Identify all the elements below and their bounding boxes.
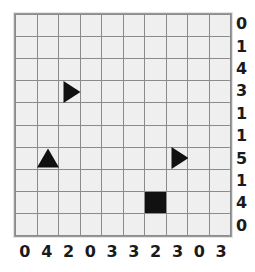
grid-cell[interactable]	[38, 214, 59, 235]
grid-cell[interactable]	[167, 37, 188, 58]
grid-cell[interactable]	[59, 37, 80, 58]
grid-cell[interactable]	[210, 81, 231, 102]
grid-cell[interactable]	[210, 148, 231, 169]
grid-cell[interactable]	[102, 170, 123, 191]
grid-cell[interactable]	[16, 59, 37, 80]
grid-cell[interactable]	[38, 103, 59, 124]
grid-cell[interactable]	[59, 214, 80, 235]
grid-cell[interactable]	[38, 15, 59, 36]
grid-cell[interactable]	[59, 170, 80, 191]
grid-cell[interactable]	[145, 59, 166, 80]
grid-cell[interactable]	[210, 15, 231, 36]
grid-cell[interactable]	[210, 214, 231, 235]
grid-cell[interactable]	[124, 148, 145, 169]
grid-cell[interactable]	[16, 81, 37, 102]
grid-cell[interactable]	[167, 103, 188, 124]
grid-cell[interactable]	[124, 15, 145, 36]
grid-cell[interactable]	[210, 170, 231, 191]
grid-cell[interactable]	[167, 126, 188, 147]
grid-cell[interactable]	[102, 214, 123, 235]
grid-cell[interactable]	[81, 59, 102, 80]
grid-cell[interactable]	[102, 148, 123, 169]
grid-cell[interactable]	[16, 214, 37, 235]
grid-cell[interactable]	[145, 192, 166, 213]
grid-cell[interactable]	[16, 192, 37, 213]
grid-cell[interactable]	[124, 126, 145, 147]
grid-cell[interactable]	[16, 126, 37, 147]
grid-cell[interactable]	[188, 37, 209, 58]
grid-cell[interactable]	[16, 148, 37, 169]
grid-cell[interactable]	[38, 192, 59, 213]
grid-cell[interactable]	[102, 15, 123, 36]
grid-cell[interactable]	[210, 37, 231, 58]
grid-cell[interactable]	[145, 170, 166, 191]
grid-cell[interactable]	[102, 126, 123, 147]
grid-cell[interactable]	[210, 59, 231, 80]
grid-cell[interactable]	[59, 126, 80, 147]
grid-cell[interactable]	[167, 59, 188, 80]
grid-cell[interactable]	[59, 81, 80, 102]
grid-cell[interactable]	[102, 37, 123, 58]
grid-cell[interactable]	[38, 170, 59, 191]
grid-cell[interactable]	[124, 103, 145, 124]
grid-cell[interactable]	[124, 59, 145, 80]
grid-cell[interactable]	[167, 15, 188, 36]
grid-cell[interactable]	[59, 15, 80, 36]
grid-cell[interactable]	[59, 148, 80, 169]
grid-cell[interactable]	[210, 103, 231, 124]
grid-cell[interactable]	[102, 192, 123, 213]
grid-cell[interactable]	[188, 59, 209, 80]
grid-cell[interactable]	[167, 170, 188, 191]
grid-cell[interactable]	[145, 15, 166, 36]
grid-cell[interactable]	[38, 81, 59, 102]
grid-cell[interactable]	[210, 192, 231, 213]
grid-cell[interactable]	[38, 37, 59, 58]
grid-cell[interactable]	[81, 37, 102, 58]
grid-cell[interactable]	[81, 103, 102, 124]
grid-cell[interactable]	[188, 81, 209, 102]
grid-cell[interactable]	[38, 126, 59, 147]
grid-cell[interactable]	[188, 103, 209, 124]
grid-cell[interactable]	[81, 81, 102, 102]
grid-cell[interactable]	[124, 170, 145, 191]
grid-cell[interactable]	[81, 148, 102, 169]
grid-cell[interactable]	[124, 37, 145, 58]
grid-cell[interactable]	[145, 37, 166, 58]
grid-cell[interactable]	[59, 59, 80, 80]
grid-cell[interactable]	[38, 59, 59, 80]
grid-cell[interactable]	[81, 192, 102, 213]
grid-cell[interactable]	[210, 126, 231, 147]
grid-cell[interactable]	[145, 214, 166, 235]
grid-cell[interactable]	[102, 103, 123, 124]
grid-cell[interactable]	[81, 15, 102, 36]
grid-cell[interactable]	[81, 214, 102, 235]
grid-cell[interactable]	[188, 214, 209, 235]
grid-cell[interactable]	[16, 170, 37, 191]
grid-cell[interactable]	[145, 81, 166, 102]
grid-cell[interactable]	[188, 126, 209, 147]
grid-cell[interactable]	[59, 103, 80, 124]
grid-cell[interactable]	[124, 214, 145, 235]
grid-cell[interactable]	[167, 81, 188, 102]
grid-cell[interactable]	[102, 81, 123, 102]
grid-cell[interactable]	[145, 148, 166, 169]
grid-cell[interactable]	[188, 192, 209, 213]
grid-cell[interactable]	[16, 103, 37, 124]
grid-cell[interactable]	[124, 81, 145, 102]
grid-cell[interactable]	[59, 192, 80, 213]
grid-cell[interactable]	[102, 59, 123, 80]
grid-cell[interactable]	[38, 148, 59, 169]
grid-cell[interactable]	[81, 126, 102, 147]
grid-cell[interactable]	[167, 148, 188, 169]
grid-cell[interactable]	[145, 126, 166, 147]
grid-cell[interactable]	[167, 214, 188, 235]
grid-cell[interactable]	[167, 192, 188, 213]
grid-cell[interactable]	[188, 15, 209, 36]
grid-cell[interactable]	[124, 192, 145, 213]
grid-cell[interactable]	[16, 15, 37, 36]
grid-cell[interactable]	[145, 103, 166, 124]
grid-cell[interactable]	[188, 170, 209, 191]
grid-cell[interactable]	[16, 37, 37, 58]
grid-cell[interactable]	[188, 148, 209, 169]
grid-cell[interactable]	[81, 170, 102, 191]
